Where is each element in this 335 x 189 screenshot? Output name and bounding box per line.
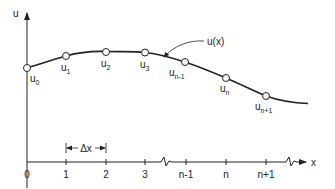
- node-label-un-minus-1: un-1: [169, 67, 185, 80]
- tick-label-0: 0: [24, 169, 30, 180]
- curve-label: u(x): [207, 36, 224, 47]
- node-u3: [142, 49, 149, 56]
- tick-label-1: 1: [63, 169, 69, 180]
- tick-label-n-minus-1: n-1: [179, 169, 194, 180]
- tick-label-n: n: [223, 169, 229, 180]
- tick-labels: 0 1 2 3 n-1 n n+1: [24, 169, 275, 180]
- finite-difference-diagram: u x 0 1 2 3 n-1 n n+1 Δx u(x): [0, 0, 335, 189]
- node-un-minus-1: [182, 59, 189, 66]
- tick-label-2: 2: [103, 169, 109, 180]
- x-axis: [27, 157, 306, 166]
- node-u1: [63, 53, 70, 60]
- node-un: [223, 75, 230, 82]
- node-un-plus-1: [263, 93, 270, 100]
- node-label-u3: u3: [140, 59, 150, 72]
- y-axis-label: u: [13, 8, 19, 19]
- node-u0: [24, 65, 31, 72]
- delta-x-label: Δx: [80, 143, 92, 154]
- node-label-u0: u0: [30, 73, 40, 86]
- node-label-u2: u2: [101, 58, 111, 71]
- tick-label-3: 3: [142, 169, 148, 180]
- diagram-canvas: u x 0 1 2 3 n-1 n n+1 Δx u(x): [0, 0, 335, 189]
- tick-label-n-plus-1: n+1: [258, 169, 275, 180]
- node-u2: [103, 49, 110, 56]
- x-axis-label: x: [311, 157, 316, 168]
- curve-callout-arrow: [164, 41, 204, 57]
- node-label-u1: u1: [61, 62, 71, 75]
- node-label-un: un: [220, 83, 230, 96]
- grid-nodes: [24, 49, 270, 100]
- node-label-un-plus-1: un+1: [255, 101, 273, 114]
